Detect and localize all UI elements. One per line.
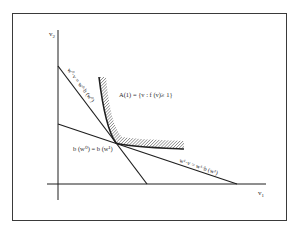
line-w0-label: w⁰·v = w⁰·b (w⁰) (65, 67, 95, 104)
figure-frame (13, 14, 287, 221)
region-label: A(1) = {v : f (v)≥ 1} (119, 91, 173, 99)
isocost-line-w1 (58, 124, 237, 184)
intersection-label: b (w⁰) = b (w¹) (73, 145, 113, 153)
y-axis-label: v2 (49, 30, 56, 39)
diagram-canvas: v2 v1 A(1) = {v : f (v)≥ 1} b (w⁰) = b (… (0, 0, 296, 229)
x-axis-label: v1 (258, 189, 265, 198)
